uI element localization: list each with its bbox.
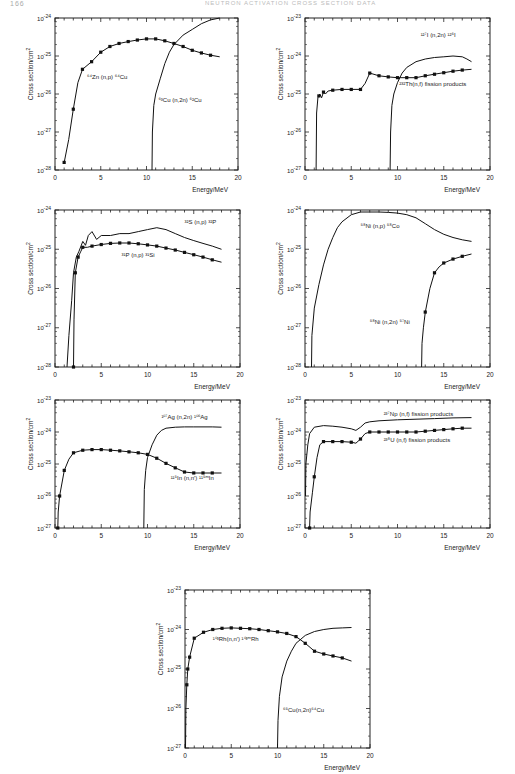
series-label: ⁶³Cu (n,2n) ⁶²Cu (158, 97, 201, 103)
data-marker (322, 652, 325, 655)
data-marker (424, 430, 427, 433)
chart-p7: 0510152010-2710-2610-2510-2410-23Energy/… (155, 585, 374, 773)
data-marker (387, 75, 390, 78)
data-marker (127, 241, 130, 244)
data-marker (451, 427, 454, 430)
plot-frame (305, 18, 490, 170)
x-tick-label: 20 (486, 174, 494, 181)
x-tick-label: 10 (394, 174, 402, 181)
series-line (278, 628, 352, 749)
y-tick-label: 10-23 (287, 395, 301, 404)
y-tick-label: 10-24 (287, 51, 301, 60)
data-marker (117, 42, 120, 45)
data-marker (308, 526, 311, 529)
data-marker (118, 449, 121, 452)
y-tick-label: 10-28 (37, 165, 51, 174)
data-marker (202, 631, 205, 634)
data-marker (461, 68, 464, 71)
x-tick-label: 10 (144, 532, 152, 539)
data-marker (108, 45, 111, 48)
data-marker (304, 642, 307, 645)
x-axis-label: Energy/MeV (444, 544, 480, 552)
series-label: ¹²⁷I (n,2n) ¹²⁶I (421, 32, 456, 38)
data-marker (58, 494, 61, 497)
y-axis-label: Cross section/cm2 (275, 417, 284, 470)
data-marker (183, 470, 186, 473)
data-marker (433, 73, 436, 76)
series-label: ⁵⁸Ni (n,p) ⁵⁸Co (361, 223, 401, 229)
chart-p4: 0510152010-2810-2710-2610-2510-24Energy/… (275, 205, 494, 392)
series-label: ¹⁰³Rh(n,n′) ¹⁰³ᵐRh (213, 636, 259, 642)
x-tick-label: 0 (303, 371, 307, 378)
y-tick-label: 10-25 (287, 244, 301, 253)
data-marker (118, 241, 121, 244)
plot-frame (305, 400, 490, 528)
x-axis-label: Energy/MeV (192, 186, 228, 194)
data-marker (137, 451, 140, 454)
data-marker (74, 271, 77, 274)
data-marker (191, 49, 194, 52)
data-marker (322, 440, 325, 443)
data-marker (174, 466, 177, 469)
x-tick-label: 15 (440, 371, 448, 378)
x-tick-label: 20 (236, 371, 244, 378)
data-marker (100, 448, 103, 451)
y-tick-label: 10-26 (287, 283, 301, 292)
x-axis-label: Energy/MeV (444, 383, 480, 391)
data-marker (405, 76, 408, 79)
data-marker (154, 37, 157, 40)
y-tick-label: 10-23 (167, 585, 181, 594)
series-line (74, 243, 222, 367)
data-marker (424, 74, 427, 77)
data-marker (81, 449, 84, 452)
data-marker (63, 469, 66, 472)
data-marker (331, 440, 334, 443)
data-marker (72, 365, 75, 368)
data-marker (461, 427, 464, 430)
data-marker (340, 440, 343, 443)
y-tick-label: 10-25 (287, 459, 301, 468)
plot-frame (55, 18, 238, 170)
chart-p1: 0510152010-2810-2710-2610-2510-24Energy/… (25, 13, 242, 195)
data-marker (350, 88, 353, 91)
x-axis-label: Energy/MeV (194, 383, 230, 391)
x-tick-label: 5 (229, 752, 233, 759)
data-marker (230, 626, 233, 629)
y-axis-label: Cross section/cm2 (275, 47, 284, 100)
series-label: ²³⁷Np (n,f) fission products (384, 411, 454, 417)
data-marker (90, 60, 93, 63)
data-marker (414, 430, 417, 433)
data-marker (396, 430, 399, 433)
x-tick-label: 0 (53, 532, 57, 539)
data-marker (72, 108, 75, 111)
x-tick-label: 20 (486, 371, 494, 378)
data-marker (188, 656, 191, 659)
x-tick-label: 15 (190, 532, 198, 539)
data-marker (164, 246, 167, 249)
x-tick-label: 0 (53, 371, 57, 378)
data-marker (99, 51, 102, 54)
series-label: ¹¹⁵In (n,n′) ¹¹⁵ᵐIn (171, 475, 214, 481)
data-marker (377, 430, 380, 433)
data-marker (146, 243, 149, 246)
data-marker (81, 68, 84, 71)
data-marker (164, 462, 167, 465)
series-label: ⁶⁴Zn (n,p) ⁶⁴Cu (87, 74, 127, 80)
data-marker (174, 248, 177, 251)
x-tick-label: 5 (99, 174, 103, 181)
y-tick-label: 10-23 (37, 395, 51, 404)
data-marker (322, 91, 325, 94)
series-label: ⁶⁵Cu(n,2n)⁶⁴Cu (283, 707, 324, 713)
data-marker (185, 683, 188, 686)
data-marker (396, 76, 399, 79)
data-marker (192, 253, 195, 256)
data-marker (341, 656, 344, 659)
y-tick-label: 10-24 (37, 13, 51, 22)
y-tick-label: 10-26 (37, 283, 51, 292)
data-marker (317, 94, 320, 97)
y-axis-label: Cross section/cm2 (25, 417, 34, 470)
data-marker (340, 88, 343, 91)
data-marker (285, 632, 288, 635)
y-tick-label: 10-24 (37, 205, 51, 214)
series-label: ⁵⁸Ni (n,2n) ⁵⁷Ni (370, 319, 410, 325)
